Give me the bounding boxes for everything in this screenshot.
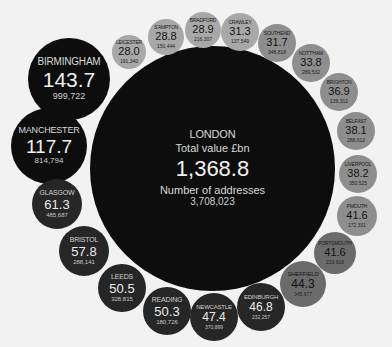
bubble-city-label: MANCHESTER [18, 126, 79, 135]
bubble-addresses: 139,312 [330, 99, 348, 104]
bubble-value: 50.3 [154, 305, 179, 319]
bubble-addresses: 348,818 [268, 50, 286, 55]
bubble-liverpool: LIVERPOOL38.2350,525 [339, 155, 377, 193]
bubble-addresses: 350,525 [349, 181, 367, 186]
bubble-city-label: BRISTOL [70, 236, 98, 243]
bubble-edinburgh: EDINBURGH46.8232,257 [237, 283, 285, 331]
bubble-addresses: 345,677 [294, 292, 312, 297]
bubble-addresses: 232,257 [252, 315, 270, 320]
bubble-city-label: LEEDS [111, 273, 133, 280]
bubble-portsmouth: PORTSMOUTH41.6219,916 [314, 232, 356, 274]
bubble-value: 46.8 [249, 301, 272, 314]
bubble-addresses: 814,794 [35, 157, 64, 165]
bubble-chart: LONDON Total value £bn 1,368.8 Number of… [0, 0, 392, 347]
bubble-birmingham: BIRMINGHAM143.7999,722 [28, 38, 110, 120]
bubble-addresses: 219,916 [326, 260, 344, 265]
bubble-southend: SOUTHEND31.7348,818 [258, 24, 296, 62]
bubble-value: 31.3 [229, 26, 250, 38]
bubble-reading: READING50.3180,726 [143, 287, 191, 335]
bubble-value: 31.7 [266, 37, 287, 49]
bubble-addresses: 172,331 [348, 223, 366, 228]
bubble-value: 36.9 [328, 86, 349, 98]
bubble-leeds: LEEDS50.5328,815 [98, 264, 146, 312]
bubble-glasgow: GLASGOW61.3485,687 [32, 179, 82, 229]
bubble-addresses: 485,687 [46, 212, 68, 218]
bubble-brighton: BRIGHTON36.9139,312 [320, 73, 358, 111]
bubble-sampton: S'AMPTON28.8150,444 [148, 19, 184, 55]
bubble-value: 38.1 [345, 125, 366, 137]
bubble-value: 38.2 [347, 168, 368, 180]
addresses-label: Number of addresses [160, 185, 265, 197]
total-value: 1,368.8 [176, 157, 249, 180]
bubble-addresses: 191,340 [120, 59, 138, 64]
bubble-crawley: CRAWLEY31.3137,549 [221, 13, 259, 51]
bubble-pmouth: PMOUTH41.6172,331 [337, 196, 377, 236]
bubble-value: 47.4 [202, 311, 225, 324]
bubble-value: 28.8 [155, 31, 176, 43]
bubble-city-label: LONDON [190, 129, 236, 141]
bubble-value: 61.3 [44, 198, 69, 212]
bubble-city-label: BIRMINGHAM [37, 57, 100, 68]
bubble-belfast: BELFAST38.1288,612 [337, 112, 375, 150]
bubble-value: 143.7 [43, 69, 96, 91]
bubble-addresses: 288,141 [73, 259, 95, 265]
bubble-london: LONDON Total value £bn 1,368.8 Number of… [90, 46, 335, 291]
bubble-nottham: NOTT'HAM33.8289,532 [292, 44, 330, 82]
bubble-value: 117.7 [26, 137, 72, 157]
bubble-addresses: 999,722 [53, 92, 86, 101]
bubble-addresses: 328,815 [111, 296, 133, 302]
bubble-value: 28.9 [192, 24, 213, 36]
total-value-label: Total value £bn [176, 143, 250, 155]
bubble-addresses: 289,532 [302, 70, 320, 75]
bubble-value: 41.6 [346, 210, 367, 222]
bubble-addresses: 370,899 [205, 325, 223, 330]
bubble-value: 50.5 [109, 282, 134, 296]
bubble-sheffield: SHEFFIELD44.3345,677 [280, 261, 326, 307]
bubble-manchester: MANCHESTER117.7814,794 [11, 108, 87, 184]
bubble-city-label: GLASGOW [40, 189, 75, 196]
bubble-leicester: LEICESTER28.0191,340 [112, 35, 146, 69]
bubble-city-label: READING [152, 296, 183, 303]
bubble-addresses: 180,726 [156, 319, 178, 325]
bubble-addresses: 288,612 [347, 138, 365, 143]
bubble-value: 57.8 [71, 245, 96, 259]
bubble-addresses: 150,444 [157, 44, 175, 49]
bubble-value: 44.3 [291, 278, 314, 291]
bubble-value: 28.0 [118, 46, 139, 58]
bubble-value: 33.8 [300, 57, 321, 69]
bubble-addresses: 216,307 [194, 37, 212, 42]
bubble-bradford: BRADFORD28.9216,307 [185, 12, 221, 48]
bubble-bristol: BRISTOL57.8288,141 [59, 226, 109, 276]
addresses-count: 3,708,023 [190, 197, 235, 208]
bubble-newcastle: NEWCASTLE47.4370,899 [190, 293, 238, 341]
bubble-addresses: 137,549 [231, 39, 249, 44]
bubble-value: 41.6 [324, 247, 345, 259]
